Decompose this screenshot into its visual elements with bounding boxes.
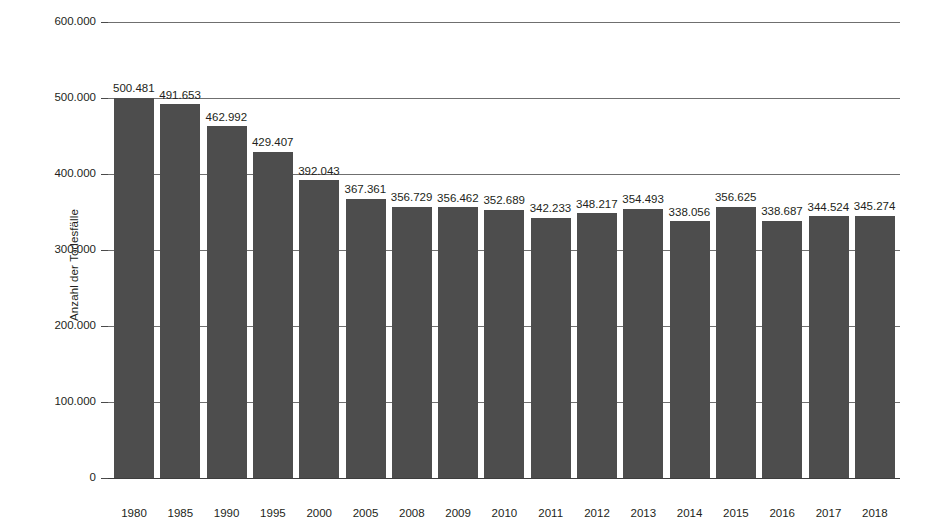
bar-value-label: 367.361 [345, 184, 387, 196]
y-tick-label: 100.000 [26, 396, 96, 408]
x-tick-label: 1995 [247, 508, 299, 520]
y-tick-label: 500.000 [26, 92, 96, 104]
bar-value-label: 356.625 [715, 192, 757, 204]
x-tick-label: 2016 [756, 508, 808, 520]
x-tick-label: 2008 [386, 508, 438, 520]
bar[interactable] [716, 207, 756, 478]
y-tick-mark [101, 402, 108, 403]
y-tick-label: 0 [26, 472, 96, 484]
x-tick-label: 2018 [849, 508, 901, 520]
bar[interactable] [484, 210, 524, 478]
bar-group: 344.524 [809, 22, 849, 478]
bar-value-label: 344.524 [808, 202, 850, 214]
bar-value-label: 429.407 [252, 137, 294, 149]
bar[interactable] [855, 216, 895, 478]
y-tick-mark [101, 250, 108, 251]
bar[interactable] [114, 98, 154, 478]
y-tick-label: 300.000 [26, 244, 96, 256]
y-axis-title-label: Anzahl der Todesfälle [68, 209, 80, 321]
x-tick-label: 2010 [478, 508, 530, 520]
bar-group: 500.481 [114, 22, 154, 478]
y-tick-mark [101, 22, 108, 23]
bar[interactable] [438, 207, 478, 478]
bar-group: 342.233 [531, 22, 571, 478]
bar-value-label: 348.217 [576, 199, 618, 211]
y-tick-label: 200.000 [26, 320, 96, 332]
x-tick-label: 2017 [803, 508, 855, 520]
bar-value-label: 491.653 [159, 90, 201, 102]
bar-value-label: 345.274 [854, 201, 896, 213]
bar-value-label: 462.992 [206, 112, 248, 124]
bar[interactable] [346, 199, 386, 478]
bar-value-label: 356.729 [391, 192, 433, 204]
bar-value-label: 392.043 [298, 166, 340, 178]
x-tick-label: 2015 [710, 508, 762, 520]
bar[interactable] [762, 221, 802, 478]
bar-group: 356.625 [716, 22, 756, 478]
y-tick-mark [101, 326, 108, 327]
x-tick-label: 2009 [432, 508, 484, 520]
bar-group: 352.689 [484, 22, 524, 478]
bar[interactable] [577, 213, 617, 478]
x-tick-label: 1980 [108, 508, 160, 520]
x-tick-label: 2013 [617, 508, 669, 520]
bar[interactable] [299, 180, 339, 478]
bar-chart: Anzahl der Todesfälle 0100.000200.000300… [0, 0, 926, 530]
bar-value-label: 338.687 [761, 206, 803, 218]
y-tick-mark [101, 174, 108, 175]
bar-value-label: 500.481 [113, 83, 155, 95]
y-tick-label: 400.000 [26, 168, 96, 180]
bar-value-label: 354.493 [622, 194, 664, 206]
x-tick-label: 1990 [201, 508, 253, 520]
y-tick-mark [101, 98, 108, 99]
y-tick-label: 600.000 [26, 16, 96, 28]
bar-value-label: 342.233 [530, 203, 572, 215]
bar-group: 354.493 [623, 22, 663, 478]
bar-group: 338.056 [670, 22, 710, 478]
bars-layer: 500.481491.653462.992429.407392.043367.3… [108, 22, 900, 478]
bar[interactable] [160, 104, 200, 478]
bar-group: 356.462 [438, 22, 478, 478]
bar-group: 491.653 [160, 22, 200, 478]
bar[interactable] [531, 218, 571, 478]
y-axis-title: Anzahl der Todesfälle [22, 0, 56, 530]
bar[interactable] [670, 221, 710, 478]
x-tick-label: 2000 [293, 508, 345, 520]
x-axis-line [108, 478, 900, 479]
bar-value-label: 352.689 [483, 195, 525, 207]
bar-group: 345.274 [855, 22, 895, 478]
bar-group: 392.043 [299, 22, 339, 478]
x-tick-label: 1985 [154, 508, 206, 520]
bar-group: 429.407 [253, 22, 293, 478]
x-tick-label: 2014 [664, 508, 716, 520]
x-tick-label: 2005 [340, 508, 392, 520]
y-tick-mark [101, 478, 108, 479]
bar[interactable] [253, 152, 293, 478]
bar[interactable] [207, 126, 247, 478]
x-tick-label: 2011 [525, 508, 577, 520]
bar-group: 367.361 [346, 22, 386, 478]
x-tick-label: 2012 [571, 508, 623, 520]
bar-group: 338.687 [762, 22, 802, 478]
bar-value-label: 338.056 [669, 207, 711, 219]
x-axis-labels: 1980198519901995200020052008200920102011… [108, 22, 900, 62]
bar-group: 356.729 [392, 22, 432, 478]
bar-value-label: 356.462 [437, 193, 479, 205]
bar[interactable] [623, 209, 663, 478]
bar[interactable] [392, 207, 432, 478]
bar[interactable] [809, 216, 849, 478]
plot-area: 0100.000200.000300.000400.000500.000600.… [108, 22, 900, 478]
bar-group: 462.992 [207, 22, 247, 478]
bar-group: 348.217 [577, 22, 617, 478]
